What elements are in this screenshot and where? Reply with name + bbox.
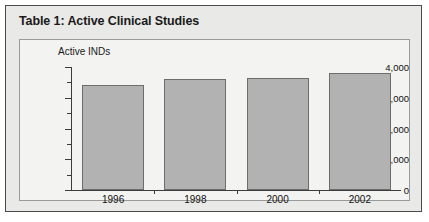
- bar: [247, 78, 309, 190]
- x-tick-label: 2000: [267, 194, 289, 205]
- y-minor-tick-mark: [67, 82, 71, 83]
- page-title: Table 1: Active Clinical Studies: [19, 14, 199, 28]
- y-minor-tick-mark: [67, 175, 71, 176]
- chart-panel: Active INDs 01,0002,0003,0004,000 199619…: [19, 39, 410, 201]
- x-tick-mark: [237, 190, 238, 194]
- bar-series: [72, 67, 401, 190]
- x-tick-label: 1996: [102, 194, 124, 205]
- bar: [82, 85, 144, 190]
- x-tick-label: 1998: [184, 194, 206, 205]
- y-minor-tick-mark: [67, 144, 71, 145]
- figure-card: Table 1: Active Clinical Studies Active …: [5, 5, 422, 212]
- x-tick-mark: [154, 190, 155, 194]
- bar: [164, 79, 226, 190]
- y-tick-mark: [65, 190, 71, 191]
- x-tick-label: 2002: [349, 194, 371, 205]
- y-tick-mark: [65, 98, 71, 99]
- plot-area: 01,0002,0003,0004,000 1996199820002002: [20, 40, 409, 200]
- y-tick-mark: [65, 67, 71, 68]
- y-tick-mark: [65, 129, 71, 130]
- y-tick-mark: [65, 159, 71, 160]
- bar: [329, 73, 391, 190]
- y-minor-tick-mark: [67, 113, 71, 114]
- x-tick-mark: [319, 190, 320, 194]
